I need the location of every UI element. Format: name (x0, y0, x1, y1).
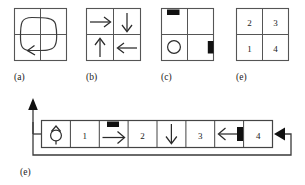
panel-d-cell-bottom-right-label: 4 (273, 44, 278, 54)
black-bar-vertical-icon (237, 127, 243, 141)
panel-a: (a) (14, 9, 67, 84)
panel-c: (c) (161, 9, 214, 84)
black-bar-horizontal-icon (107, 122, 119, 128)
panel-e-cell-8-label: 4 (256, 131, 261, 141)
black-bar-vertical-icon (208, 41, 214, 54)
arrow-left-solid-icon (274, 128, 285, 141)
figure-root: (a) (b) (c) (0, 0, 305, 185)
panel-b: (b) (86, 9, 141, 84)
black-bar-horizontal-icon (167, 10, 180, 16)
figure-canvas: (a) (b) (c) (0, 0, 305, 185)
panel-d-caption: (e) (236, 72, 247, 83)
panel-b-caption: (b) (86, 72, 97, 83)
panel-e: 1 2 3 4 (20, 98, 291, 178)
panel-d-cell-top-right-label: 3 (273, 18, 278, 28)
panel-d-cell-bottom-left-label: 1 (247, 44, 252, 54)
panel-e-cell-2-label: 1 (83, 131, 88, 141)
panel-c-caption: (c) (161, 72, 172, 83)
panel-a-caption: (a) (14, 72, 25, 83)
panel-d: 2 3 1 4 (e) (236, 9, 289, 84)
arrow-up-solid-icon (28, 98, 38, 134)
panel-d-cell-top-left-label: 2 (247, 18, 252, 28)
panel-e-cell-6-label: 3 (198, 131, 203, 141)
panel-e-caption: (e) (20, 167, 31, 178)
panel-e-cell-4-label: 2 (140, 131, 145, 141)
